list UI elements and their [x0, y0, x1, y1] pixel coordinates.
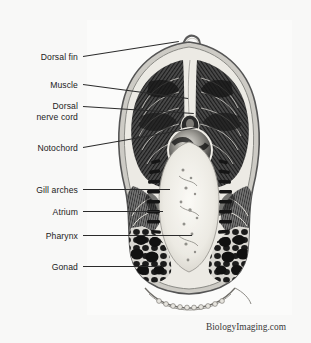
label-dorsal-fin: Dorsal fin	[8, 52, 78, 63]
label-pharynx: Pharynx	[8, 231, 78, 242]
label-notochord-line: Notochord	[8, 143, 78, 154]
label-pharynx-line: Pharynx	[8, 231, 78, 242]
leader-line-gonad	[83, 266, 160, 267]
leader-line-atrium	[83, 211, 163, 212]
label-dorsal-nerve-cord: Dorsalnerve cord	[8, 101, 78, 122]
label-dorsal-nerve-cord-line: nerve cord	[8, 112, 78, 123]
label-gonad: Gonad	[8, 262, 78, 273]
label-notochord: Notochord	[8, 143, 78, 154]
leader-line-gill-arches	[83, 189, 170, 190]
label-atrium-line: Atrium	[8, 207, 78, 218]
label-muscle-line: Muscle	[8, 80, 78, 91]
label-atrium: Atrium	[8, 207, 78, 218]
label-muscle: Muscle	[8, 80, 78, 91]
credit-attribution: BiologyImaging.com	[206, 322, 286, 332]
label-dorsal-nerve-cord-line: Dorsal	[8, 101, 78, 112]
label-gonad-line: Gonad	[8, 262, 78, 273]
label-gill-arches: Gill arches	[8, 185, 78, 196]
label-dorsal-fin-line: Dorsal fin	[8, 52, 78, 63]
specimen-cross-section-image	[87, 20, 292, 315]
figure-canvas: Dorsal finMuscleDorsalnerve cordNotochor…	[0, 0, 311, 343]
leader-line-pharynx	[83, 235, 192, 236]
label-gill-arches-line: Gill arches	[8, 185, 78, 196]
